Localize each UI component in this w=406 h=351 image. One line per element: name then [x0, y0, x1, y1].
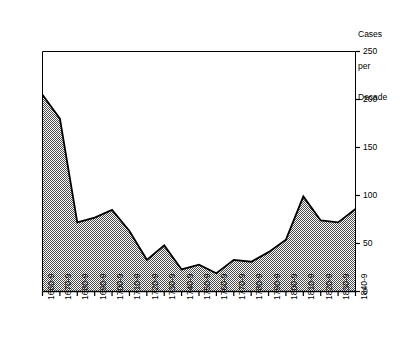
- x-tick-label-1710-9: 1710-9: [133, 273, 142, 299]
- y-tick-label-150: 150: [363, 143, 377, 152]
- x-tick-label-1770-9: 1770-9: [238, 273, 247, 299]
- x-tick-label-1730-9: 1730-9: [168, 273, 177, 299]
- area-fill: [43, 95, 356, 292]
- x-tick-label-1660-9: 1660-9: [47, 273, 56, 299]
- y-axis-ticks: [356, 52, 361, 292]
- x-tick-label-1680-9: 1680-9: [81, 273, 90, 299]
- series-fill: [43, 95, 356, 292]
- y-tick-label-250: 250: [363, 47, 377, 56]
- x-tick-label-1690-9: 1690-9: [99, 273, 108, 299]
- x-tick-label-1720-9: 1720-9: [151, 273, 160, 299]
- x-tick-label-1830-9: 1830-9: [342, 273, 351, 299]
- x-tick-label-1750-9: 1750-9: [203, 273, 212, 299]
- y-tick-label-100: 100: [363, 191, 377, 200]
- x-tick-label-1670-9: 1670-9: [64, 273, 73, 299]
- area-chart: Cases per Decade 050100150200250 1660-91…: [0, 0, 406, 351]
- x-tick-label-1740-9: 1740-9: [186, 273, 195, 299]
- x-tick-label-1800-9: 1800-9: [290, 273, 299, 299]
- x-tick-label-1810-9: 1810-9: [307, 273, 316, 299]
- x-tick-label-1780-9: 1780-9: [255, 273, 264, 299]
- x-tick-label-1790-9: 1790-9: [273, 273, 282, 299]
- x-tick-label-1820-9: 1820-9: [325, 273, 334, 299]
- x-tick-label-1700-9: 1700-9: [116, 273, 125, 299]
- y-tick-label-50: 50: [363, 239, 372, 248]
- x-tick-label-1840-9: 1840-9: [360, 273, 369, 299]
- y-tick-label-200: 200: [363, 95, 377, 104]
- x-tick-label-1760-9: 1760-9: [220, 273, 229, 299]
